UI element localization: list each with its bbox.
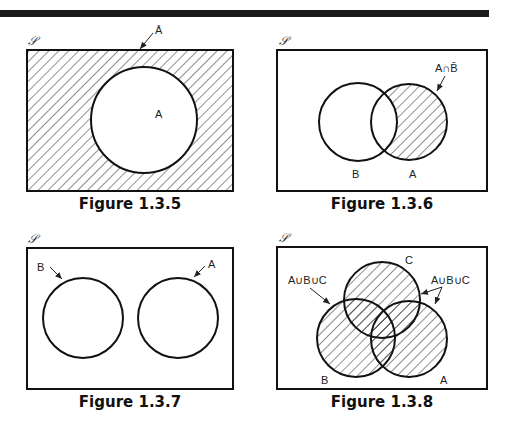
set-a-label: A [155, 108, 163, 120]
figure-caption-1-3-8: Figure 1.3.8 [279, 393, 485, 411]
venn-diagram-figures: 𝒮 A Ā 𝒮 B A A∩B̄ 𝒮 B A [0, 0, 514, 426]
figure-caption-1-3-5: Figure 1.3.5 [27, 195, 233, 213]
set-c-label: C [405, 254, 413, 266]
annotation-arrow [140, 33, 153, 49]
universe-label: 𝒮 [279, 34, 292, 48]
set-a-label: A [440, 374, 448, 386]
universe-label: 𝒮 [28, 34, 41, 48]
complement-annotation: Ā [155, 24, 163, 36]
universe-label: 𝒮 [28, 232, 41, 246]
figure-caption-1-3-6: Figure 1.3.6 [279, 195, 485, 213]
union-annotation-left: A∪B∪C [288, 274, 327, 286]
set-a-label: A [409, 168, 417, 180]
figure-1-3-5: 𝒮 A Ā [27, 24, 233, 191]
set-b-label: B [352, 168, 359, 180]
union-annotation-right: A∪B∪C [431, 274, 470, 286]
set-a-label: A [208, 258, 216, 270]
set-b-label: B [321, 374, 328, 386]
figure-1-3-8: 𝒮 C B A A∪B∪C A∪B∪C [277, 231, 487, 389]
header-bar [0, 10, 489, 17]
set-a-circle [91, 67, 197, 173]
set-b-label: B [37, 261, 44, 273]
figure-1-3-6: 𝒮 B A A∩B̄ [277, 34, 487, 191]
figure-1-3-7: 𝒮 B A [27, 232, 233, 389]
difference-annotation: A∩B̄ [435, 62, 458, 74]
figure-caption-1-3-7: Figure 1.3.7 [27, 393, 233, 411]
universe-label: 𝒮 [279, 231, 292, 245]
